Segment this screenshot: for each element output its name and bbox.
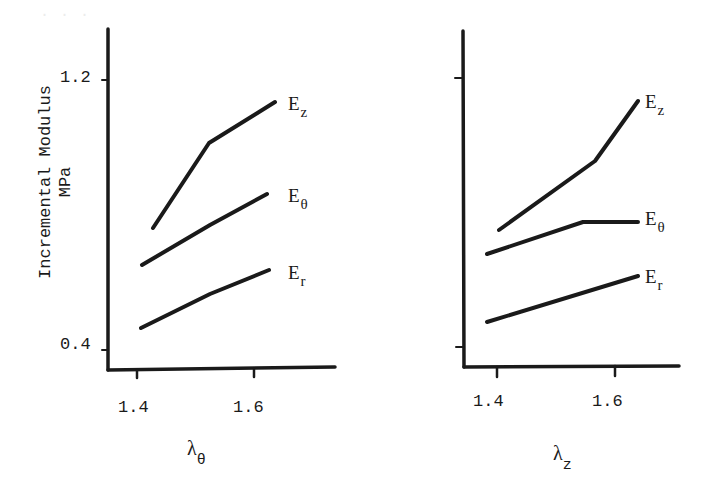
label-sub: r bbox=[301, 273, 306, 289]
left-series-ez bbox=[153, 102, 275, 228]
left-x-axis bbox=[108, 367, 335, 370]
label-main: E bbox=[288, 262, 300, 283]
label-main: E bbox=[288, 185, 300, 206]
right-series-etheta bbox=[487, 222, 638, 254]
left-x-tick-label-1-6: 1.6 bbox=[233, 398, 264, 417]
lambda-subscript: θ bbox=[197, 452, 206, 469]
right-x-tick-label-1-4: 1.4 bbox=[473, 392, 504, 411]
left-x-axis-title: λθ bbox=[187, 437, 206, 469]
left-label-er: Er bbox=[288, 262, 306, 290]
label-sub: θ bbox=[658, 219, 665, 235]
left-series-er bbox=[141, 270, 269, 328]
label-sub: θ bbox=[301, 196, 308, 212]
left-label-ez: Ez bbox=[288, 93, 307, 121]
right-label-etheta: Eθ bbox=[645, 208, 665, 236]
right-axes bbox=[455, 31, 679, 377]
lambda-subscript: z bbox=[563, 457, 572, 474]
y-axis-title-line1: Incremental Modulus bbox=[36, 17, 56, 347]
lambda-symbol: λ bbox=[187, 437, 197, 459]
left-x-tick-label-1-4: 1.4 bbox=[118, 398, 149, 417]
right-x-axis-title: λz bbox=[553, 442, 572, 474]
label-sub: z bbox=[301, 104, 308, 120]
right-label-ez: Ez bbox=[645, 91, 664, 119]
left-y-tick-label-0-4: 0.4 bbox=[60, 335, 91, 354]
right-y-axis bbox=[463, 31, 464, 367]
label-main: E bbox=[645, 266, 657, 287]
right-label-er: Er bbox=[645, 266, 663, 294]
label-main: E bbox=[645, 208, 657, 229]
lambda-symbol: λ bbox=[553, 442, 563, 464]
label-main: E bbox=[288, 93, 300, 114]
left-series-etheta bbox=[142, 194, 267, 265]
left-label-etheta: Eθ bbox=[288, 185, 308, 213]
y-axis-title-line2: MPa bbox=[56, 17, 76, 347]
label-sub: z bbox=[658, 102, 665, 118]
right-x-tick-label-1-6: 1.6 bbox=[592, 392, 623, 411]
left-y-tick-label-1-2: 1.2 bbox=[60, 68, 91, 87]
y-axis-title: Incremental Modulus MPa bbox=[36, 17, 76, 347]
label-sub: r bbox=[658, 277, 663, 293]
right-series-ez bbox=[499, 101, 638, 230]
chart-canvas bbox=[0, 0, 716, 497]
right-series-er bbox=[487, 276, 638, 322]
label-main: E bbox=[645, 91, 657, 112]
